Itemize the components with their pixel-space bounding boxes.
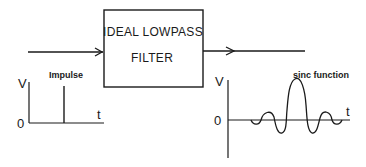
lowpass-filter-diagram: IDEAL LOWPASS FILTER Impulse V t 0 sinc … bbox=[0, 0, 366, 167]
sinc-title: sinc function bbox=[293, 70, 349, 80]
input-origin-label: 0 bbox=[17, 116, 24, 131]
output-x-label: t bbox=[346, 104, 350, 119]
filter-label-line1: IDEAL LOWPASS bbox=[103, 25, 203, 39]
input-x-label: t bbox=[97, 107, 101, 122]
input-arrow bbox=[28, 48, 103, 56]
filter-box: IDEAL LOWPASS FILTER bbox=[103, 10, 203, 87]
sinc-curve bbox=[251, 78, 342, 133]
impulse-title: Impulse bbox=[49, 70, 83, 80]
output-y-label: V bbox=[215, 74, 224, 89]
output-origin-label: 0 bbox=[214, 113, 221, 128]
sinc-graph: sinc function V t 0 bbox=[214, 70, 350, 158]
impulse-graph: Impulse V t 0 bbox=[17, 70, 104, 131]
output-arrow bbox=[203, 47, 305, 55]
input-y-label: V bbox=[18, 76, 27, 91]
filter-label-line2: FILTER bbox=[131, 51, 173, 65]
